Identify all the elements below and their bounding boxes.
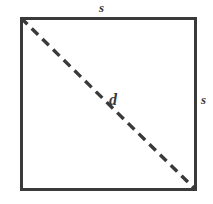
figure-canvas xyxy=(0,0,213,204)
label-side-top: s xyxy=(99,1,104,14)
square-diagonal-figure: s s d xyxy=(0,0,213,204)
label-side-right: s xyxy=(201,93,206,106)
label-diagonal: d xyxy=(109,92,117,108)
